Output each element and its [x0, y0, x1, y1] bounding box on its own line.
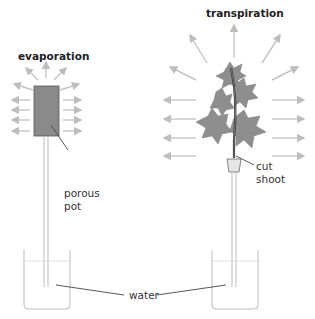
cut-shoot-plant [196, 62, 266, 158]
pot-pointer-line [51, 125, 68, 150]
transpiration-title: transpiration [206, 8, 284, 19]
right-tube [232, 172, 236, 287]
right-beaker [212, 250, 258, 309]
cut-label-line1: cut [256, 161, 273, 172]
porous-pot [34, 86, 59, 136]
left-beaker [24, 250, 70, 309]
porous-label-line1: porous [64, 188, 100, 199]
porous-label-line2: pot [64, 201, 81, 212]
shoot-label-line2: shoot [256, 174, 285, 185]
shoot-holder [227, 159, 241, 172]
water-label: water [129, 290, 159, 301]
water-pointer-left [56, 285, 124, 295]
water-pointer-right [157, 285, 226, 295]
left-tube [44, 136, 48, 287]
evaporation-title: evaporation [18, 51, 89, 62]
